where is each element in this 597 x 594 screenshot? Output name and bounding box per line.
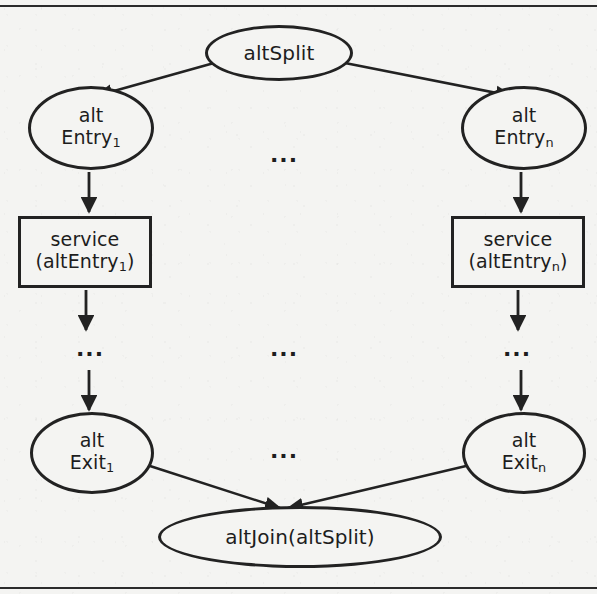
node-service-n-label: service(altEntryn) <box>468 229 567 275</box>
node-service-alt-entry-n[interactable]: service(altEntryn) <box>451 216 585 288</box>
node-alt-exit-1-line1: alt <box>80 429 105 451</box>
ellipsis-marker-top-middle: ... <box>270 144 298 166</box>
node-alt-entry-n-subscript: n <box>545 135 553 150</box>
node-alt-exit-n-subscript: n <box>538 460 546 475</box>
node-alt-entry-n-line1: alt <box>512 104 537 126</box>
node-service-n-line1: service <box>484 228 553 250</box>
node-alt-join[interactable]: altJoin(altSplit) <box>158 506 442 568</box>
node-alt-exit-1-subscript: 1 <box>106 460 114 475</box>
node-alt-exit-n-label: altExitn <box>502 430 547 476</box>
diagram-figure: altSplit altEntry1 altEntryn service(alt… <box>0 0 597 594</box>
node-service-n-line2-suffix: ) <box>560 250 568 272</box>
node-alt-exit-1-line2: Exit <box>70 451 106 473</box>
ellipsis-marker-middle-left: ... <box>76 338 104 360</box>
node-alt-entry-1-line2: Entry <box>61 126 112 148</box>
node-alt-exit-n-line1: alt <box>512 429 537 451</box>
node-service-1-subscript: 1 <box>119 259 127 274</box>
node-service-1-line2-suffix: ) <box>127 250 135 272</box>
node-alt-split[interactable]: altSplit <box>205 25 353 81</box>
node-alt-exit-n[interactable]: altExitn <box>462 412 586 494</box>
node-service-n-line2: (altEntry <box>468 250 551 272</box>
node-alt-entry-1-label: altEntry1 <box>61 105 120 151</box>
node-alt-entry-1[interactable]: altEntry1 <box>28 86 154 170</box>
ellipsis-marker-middle-right: ... <box>503 338 531 360</box>
node-service-1-label: service(altEntry1) <box>35 229 134 275</box>
node-service-1-line2: (altEntry <box>35 250 118 272</box>
node-service-1-line1: service <box>51 228 120 250</box>
node-alt-exit-n-line2: Exit <box>502 451 538 473</box>
node-alt-exit-1-label: altExit1 <box>70 430 115 476</box>
edge-altexit1-to-altjoin <box>150 466 280 508</box>
node-alt-entry-n-label: altEntryn <box>494 105 553 151</box>
node-alt-split-label: altSplit <box>244 42 315 65</box>
node-alt-entry-n-line2: Entry <box>494 126 545 148</box>
ellipsis-marker-exit-middle: ... <box>270 440 298 462</box>
node-alt-entry-n[interactable]: altEntryn <box>461 86 587 170</box>
edge-altsplit-to-altentryn <box>345 63 512 96</box>
node-service-n-subscript: n <box>552 259 560 274</box>
edge-altexitn-to-altjoin <box>288 466 466 508</box>
node-alt-entry-1-line1: alt <box>79 104 104 126</box>
ellipsis-marker-middle-center: ... <box>270 338 298 360</box>
node-alt-exit-1[interactable]: altExit1 <box>30 412 154 494</box>
node-alt-entry-1-subscript: 1 <box>112 135 120 150</box>
node-service-alt-entry-1[interactable]: service(altEntry1) <box>18 216 152 288</box>
node-alt-join-label: altJoin(altSplit) <box>225 526 374 549</box>
